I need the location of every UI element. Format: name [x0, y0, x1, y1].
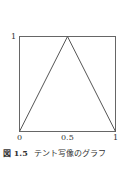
y-tick-1: 1	[11, 33, 16, 41]
figure-number: 図 1.5	[3, 148, 28, 158]
plot-area	[0, 0, 126, 171]
figure-caption: 図 1.5 テント写像のグラフ	[3, 148, 126, 159]
tent-map-line	[20, 37, 116, 132]
x-tick-0: 0	[17, 134, 22, 142]
x-tick-1: 1	[113, 134, 118, 142]
caption-text: テント写像のグラフ	[34, 149, 106, 158]
plot-frame	[20, 37, 116, 132]
tent-map-figure: 1 0 0.5 1 図 1.5 テント写像のグラフ	[0, 0, 126, 171]
x-tick-0-5: 0.5	[61, 134, 74, 142]
